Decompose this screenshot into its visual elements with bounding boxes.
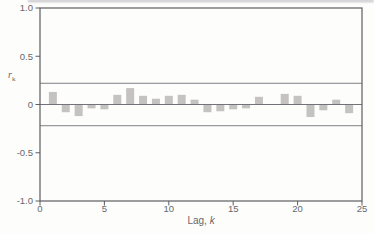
y-tick-label: -0.5: [17, 147, 33, 158]
correlogram-chart: 1.00.50-0.5-1.00510152025 rk Lag, k: [0, 0, 374, 234]
bar-lag-21: [306, 105, 314, 118]
bar-lag-15: [229, 105, 237, 110]
y-axis-label: rk: [8, 69, 16, 83]
bar-lag-8: [139, 96, 147, 105]
bar-lag-19: [281, 94, 289, 105]
x-axis-label: Lag, k: [187, 215, 215, 226]
bar-lag-6: [113, 95, 121, 105]
y-tick-label: 0.5: [20, 51, 33, 62]
bar-lag-4: [88, 105, 96, 109]
x-tick-label: 15: [228, 203, 239, 214]
bar-lag-20: [294, 96, 302, 105]
bar-lag-23: [332, 100, 340, 105]
bar-lag-16: [242, 105, 250, 109]
bar-lag-17: [255, 97, 263, 105]
bar-lag-22: [319, 105, 327, 111]
bar-lag-5: [100, 105, 108, 110]
x-tick-label: 10: [164, 203, 175, 214]
bar-lag-10: [165, 96, 173, 105]
x-tick-label: 0: [37, 203, 42, 214]
bars-layer: [49, 88, 353, 117]
y-tick-label: 0: [28, 99, 33, 110]
bar-lag-24: [345, 105, 353, 114]
bar-lag-14: [216, 105, 224, 112]
x-tick-label: 25: [357, 203, 368, 214]
bar-lag-13: [203, 105, 211, 113]
bar-lag-2: [62, 105, 70, 113]
reference-lines-layer: [40, 83, 362, 125]
bar-lag-9: [152, 99, 160, 105]
bar-lag-7: [126, 88, 134, 104]
y-tick-label: -1.0: [17, 195, 33, 206]
bar-lag-1: [49, 92, 57, 105]
correlogram-figure: 1.00.50-0.5-1.00510152025 rk Lag, k: [0, 0, 374, 234]
x-tick-label: 20: [292, 203, 303, 214]
bar-lag-12: [191, 100, 199, 105]
x-tick-label: 5: [102, 203, 107, 214]
scan-artifact-top-edge: [28, 0, 374, 2]
bar-lag-3: [75, 105, 83, 117]
bar-lag-11: [178, 95, 186, 105]
y-tick-label: 1.0: [20, 2, 33, 13]
